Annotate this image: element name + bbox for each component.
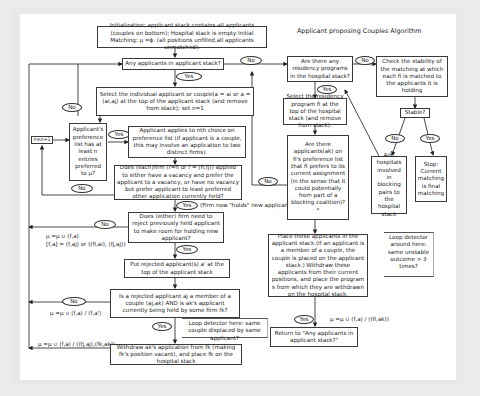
pref-list-box: Applicant's preference list has at least… <box>69 123 107 181</box>
mu-update-formula-4: μ =μ ∪ (f,a) / ((fj,aj),(fk,ak)) <box>38 341 115 348</box>
yes-label: Yes <box>152 322 172 331</box>
loop-detector-couple-text: Loop detector here: same couple displace… <box>188 320 261 341</box>
firm-check-box: Does (each)firm (f=fi or f = (fi,fj)) ap… <box>114 165 242 200</box>
yes-label: Yes <box>420 134 440 143</box>
firm-holds-note: (Firm now "holds" new applicant.) <box>200 202 294 209</box>
no-label: No <box>62 103 82 112</box>
stop-text: Stop: Current matching is final matching <box>418 161 444 197</box>
return-box: Return to "Any applicants in applicant s… <box>270 327 358 347</box>
diagram-title: Applicant proposing Couples Algorithm <box>297 27 422 35</box>
mu-update-formula-2: [f,a] = (f,aj) or ((fi,ai), (fj,aj)) <box>46 241 125 248</box>
stable-question-box: Stable? <box>400 108 430 118</box>
no-label: No <box>71 184 93 193</box>
no-label: No <box>355 56 375 65</box>
add-hospitals-box: Add hospitals involved in blocking pairs… <box>371 156 407 214</box>
stop-box: Stop: Current matching is final matching <box>415 156 447 202</box>
select-applicant-box: Select the individual applicant or coupl… <box>96 87 254 116</box>
put-rejected-box: Put rejected applicant(s) a' at the top … <box>124 259 230 278</box>
no-label: No <box>62 297 86 306</box>
yes-label: Yes <box>176 245 198 254</box>
select-program-box: Select the residency program fi at the t… <box>283 98 347 125</box>
return-text: Return to "Any applicants in applicant s… <box>273 330 355 345</box>
stable-question-text: Stable? <box>405 109 426 116</box>
mu-update-formula-3: μ =μ ∪ (f,a) / (f,a') <box>50 310 101 317</box>
check-stability-box: Check the stability of the matching at w… <box>376 56 448 97</box>
reject-check-box: Does (either) firm need to reject previo… <box>128 212 224 243</box>
no-label: No <box>240 56 262 65</box>
no-label: No <box>94 220 116 229</box>
n-increment-text: n=n+1 <box>33 137 50 143</box>
select-applicant-text: Select the individual applicant or coupl… <box>99 91 251 113</box>
mu-update-formula-5: μ =μ ∪ (f,a) / ((fi,ak)) <box>330 316 389 323</box>
loop-detector-couple-note: Loop detector here: same couple displace… <box>182 318 268 338</box>
apply-nth-text: Applicant applies to nth choice on prefe… <box>131 127 243 156</box>
n-increment-box: n=n+1 <box>31 136 53 144</box>
yes-label: Yes <box>176 72 202 81</box>
couple-check-box: Is a rejected applicant aj a member of a… <box>110 289 240 318</box>
pref-list-text: Applicant's preference list has at least… <box>72 126 104 177</box>
withdraw-text: Withdraw ak's application from fk (makin… <box>113 344 239 366</box>
residency-check-box: Are there any residency programs in the … <box>287 56 353 82</box>
loop-detector-unstable-note: Loop detector around here: same unstable… <box>384 232 434 277</box>
place-applicants-text: Place these applicants in the applicant … <box>271 233 365 299</box>
mu-update-formula-1: μ =μ ∪ (f,a) <box>46 233 79 240</box>
reject-check-text: Does (either) firm need to reject previo… <box>131 213 221 242</box>
no-label: No <box>258 177 278 186</box>
preferred-applicants-box: Are there applicants(ak) on fi's prefere… <box>287 135 349 220</box>
loop-detector-unstable-text: Loop detector around here: same unstable… <box>388 234 429 269</box>
yes-label: Yes <box>108 130 130 139</box>
init-box: Initialization: applicant stack contains… <box>97 26 267 48</box>
withdraw-box: Withdraw ak's application from fk (makin… <box>110 344 242 365</box>
no-label: No <box>385 134 405 143</box>
firm-check-text: Does (each)firm (f=fi or f = (fi,fj)) ap… <box>117 164 239 200</box>
place-applicants-box: Place these applicants in the applicant … <box>268 234 368 297</box>
any-applicants-text: Any applicants in applicant stack? <box>125 60 220 67</box>
check-stability-text: Check the stability of the matching at w… <box>379 58 445 94</box>
yes-label: Yes <box>294 315 314 324</box>
residency-check-text: Are there any residency programs in the … <box>290 58 350 80</box>
preferred-applicants-text: Are there applicants(ak) on fi's prefere… <box>290 141 346 214</box>
any-applicants-box: Any applicants in applicant stack? <box>122 58 224 70</box>
yes-label: Yes <box>176 201 198 210</box>
put-rejected-text: Put rejected applicant(s) a' at the top … <box>127 261 227 276</box>
select-program-text: Select the residency program fi at the t… <box>286 93 344 129</box>
couple-check-text: Is a rejected applicant aj a member of a… <box>113 293 237 315</box>
init-text: Initialization: applicant stack contains… <box>100 22 264 51</box>
apply-nth-box: Applicant applies to nth choice on prefe… <box>128 126 246 158</box>
add-hospitals-text: Add hospitals involved in blocking pairs… <box>374 152 404 218</box>
